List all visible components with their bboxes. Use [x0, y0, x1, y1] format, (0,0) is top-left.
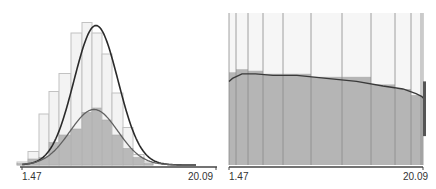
histogram-panel: 1.47 20.09 — [0, 0, 218, 189]
inner-bar — [92, 108, 102, 165]
share-bar — [248, 71, 263, 165]
share-bar — [283, 74, 311, 165]
share-bar — [263, 74, 283, 165]
inner-bar — [123, 149, 133, 166]
share-bar — [311, 77, 342, 165]
inner-bar — [144, 164, 153, 166]
share-bar — [342, 77, 371, 165]
inner-bar — [82, 113, 92, 166]
x-min-label: 1.47 — [229, 171, 248, 183]
inner-bar — [102, 120, 112, 165]
histogram-plot — [0, 0, 218, 189]
share-bar — [395, 89, 411, 165]
share-bar — [236, 69, 248, 165]
share-bar — [411, 95, 421, 165]
share-bar — [371, 84, 395, 165]
inner-bar — [71, 129, 82, 165]
share-bar — [229, 72, 236, 165]
inner-bar — [112, 135, 123, 165]
inner-bar — [59, 135, 71, 165]
x-max-label: 20.09 — [188, 171, 213, 183]
inner-bar — [133, 158, 144, 166]
normalized-plot — [218, 0, 436, 189]
x-min-label: 1.47 — [22, 171, 41, 183]
normalized-panel: 1.47 20.09 — [218, 0, 436, 189]
x-max-label: 20.09 — [403, 171, 428, 183]
